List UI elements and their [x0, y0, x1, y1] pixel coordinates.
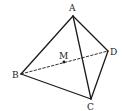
edge-bc — [21, 74, 91, 99]
label-m: M — [59, 51, 68, 61]
point-m-marker — [63, 61, 66, 64]
label-a: A — [68, 3, 76, 13]
label-c: C — [87, 102, 94, 111]
tetrahedron-diagram: A B C D M — [0, 0, 124, 111]
edge-ab — [21, 16, 73, 74]
edge-cd — [91, 51, 108, 99]
label-d: D — [110, 47, 117, 57]
label-b: B — [12, 70, 19, 80]
edge-ad — [73, 16, 108, 51]
